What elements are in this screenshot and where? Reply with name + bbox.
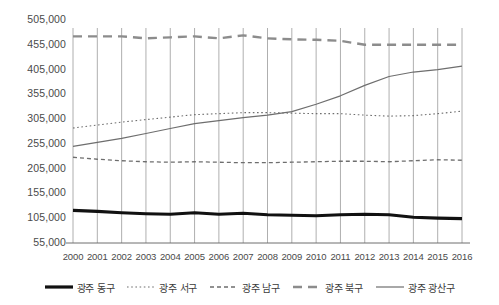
legend-swatch-icon bbox=[210, 282, 238, 292]
line-chart: 505,000455,000405,000355,000305,000255,0… bbox=[0, 0, 499, 305]
y-axis-tick-label: 505,000 bbox=[8, 13, 66, 25]
chart-legend: 광주 동구광주 서구광주 남구광주 북구광주 광산구 bbox=[0, 276, 499, 298]
legend-item[interactable]: 광주 동구 bbox=[45, 280, 115, 295]
legend-item[interactable]: 광주 북구 bbox=[293, 280, 363, 295]
legend-label: 광주 북구 bbox=[325, 280, 363, 295]
vertical-gridlines bbox=[73, 28, 462, 243]
legend-swatch-icon bbox=[127, 282, 155, 292]
y-axis-tick-label: 155,000 bbox=[8, 186, 66, 198]
legend-swatch-icon bbox=[376, 282, 404, 292]
legend-swatch-icon bbox=[45, 282, 73, 292]
legend-item[interactable]: 광주 남구 bbox=[210, 280, 280, 295]
legend-swatch-icon bbox=[293, 282, 321, 292]
y-axis-tick-label: 305,000 bbox=[8, 112, 66, 124]
y-axis-tick-label: 255,000 bbox=[8, 137, 66, 149]
y-axis-tick-label: 455,000 bbox=[8, 38, 66, 50]
legend-item[interactable]: 광주 광산구 bbox=[376, 280, 455, 295]
y-axis-tick-label: 105,000 bbox=[8, 211, 66, 223]
y-axis-tick-label: 205,000 bbox=[8, 162, 66, 174]
y-axis-tick-label: 355,000 bbox=[8, 87, 66, 99]
x-axis-tick-label: 2016 bbox=[448, 251, 476, 262]
legend-label: 광주 서구 bbox=[159, 280, 197, 295]
legend-label: 광주 남구 bbox=[242, 280, 280, 295]
legend-item[interactable]: 광주 서구 bbox=[127, 280, 197, 295]
legend-label: 광주 광산구 bbox=[408, 280, 455, 295]
y-axis-tick-label: 55,000 bbox=[8, 236, 66, 248]
legend-label: 광주 동구 bbox=[77, 280, 115, 295]
y-axis-tick-label: 405,000 bbox=[8, 63, 66, 75]
